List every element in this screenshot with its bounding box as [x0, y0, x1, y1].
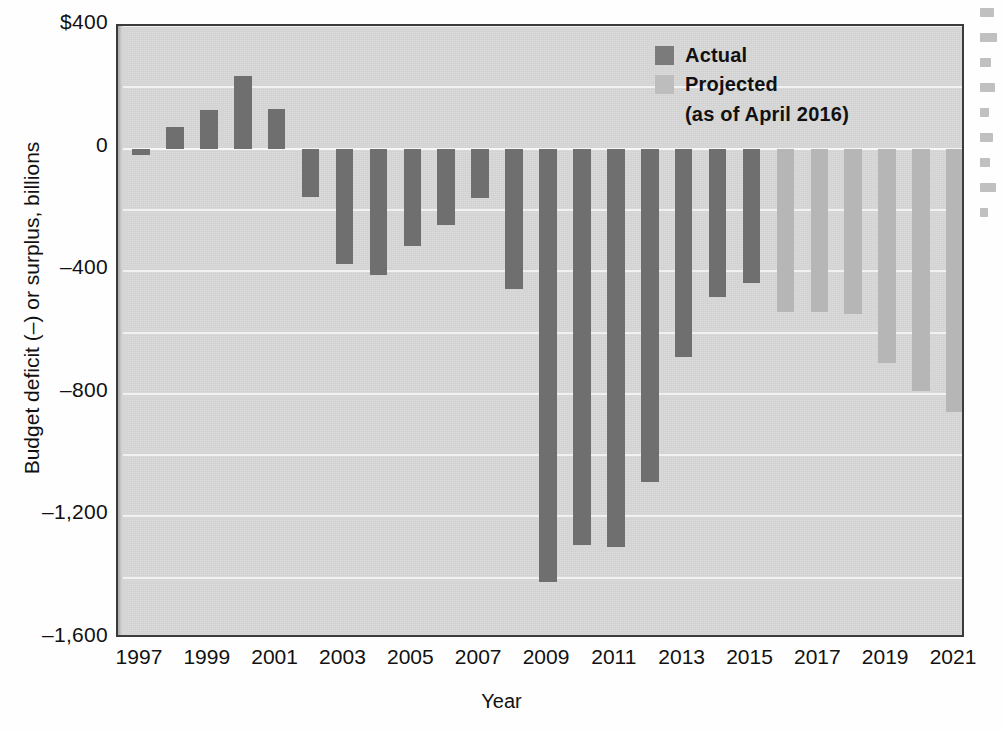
bar-2021 [946, 149, 964, 413]
x-tick-2015: 2015 [715, 645, 785, 669]
bar-2009 [539, 149, 557, 582]
x-tick-2009: 2009 [511, 645, 581, 669]
bar-2011 [607, 149, 625, 547]
legend-projected-note: (as of April 2016) [685, 102, 905, 126]
x-tick-2005: 2005 [375, 645, 445, 669]
bar-2015 [743, 149, 761, 283]
x-tick-1999: 1999 [172, 645, 242, 669]
y-axis-title: Budget deficit (–) or surplus, billions [20, 48, 44, 568]
bar-2013 [675, 149, 693, 357]
legend-item-projected: Projected [655, 73, 905, 95]
bar-2002 [302, 149, 320, 197]
legend-item-actual: Actual [655, 44, 905, 66]
bar-2007 [471, 149, 489, 198]
x-tick-2007: 2007 [443, 645, 513, 669]
y-axis-tick-labels: $4000–400–800–1,200–1,600 [0, 0, 108, 732]
bar-2016 [777, 149, 795, 313]
x-tick-2019: 2019 [850, 645, 920, 669]
bar-2004 [370, 149, 388, 276]
x-tick-1997: 1997 [104, 645, 174, 669]
bar-2019 [878, 149, 896, 364]
bar-2003 [336, 149, 354, 265]
legend-swatch-actual-icon [655, 46, 674, 65]
chart-legend: Actual Projected (as of April 2016) [655, 44, 905, 126]
bar-1999 [200, 110, 218, 149]
y-tick-400: $400 [0, 10, 108, 34]
x-tick-2003: 2003 [307, 645, 377, 669]
x-tick-2011: 2011 [579, 645, 649, 669]
x-tick-2001: 2001 [240, 645, 310, 669]
y-tick--1600: –1,600 [0, 623, 108, 647]
bar-2010 [573, 149, 591, 546]
bar-2014 [709, 149, 727, 298]
legend-label-projected: Projected [685, 73, 778, 95]
bar-2018 [844, 149, 862, 314]
x-axis-tick-labels: 1997199920012003200520072009201120132015… [116, 645, 964, 675]
budget-deficit-chart-figure: $4000–400–800–1,200–1,600 Budget deficit… [0, 0, 1003, 732]
bar-2008 [505, 149, 523, 290]
y-tick-0: 0 [0, 133, 108, 157]
y-tick--400: –400 [0, 255, 108, 279]
legend-label-actual: Actual [685, 44, 747, 66]
x-tick-2017: 2017 [782, 645, 852, 669]
bar-2001 [268, 109, 286, 148]
bar-2017 [811, 149, 829, 313]
bar-2005 [404, 149, 422, 246]
page-gutter-sliver [980, 8, 1003, 298]
y-tick--1200: –1,200 [0, 500, 108, 524]
bar-2020 [912, 149, 930, 391]
bar-1997 [132, 149, 150, 156]
x-tick-2013: 2013 [647, 645, 717, 669]
legend-swatch-projected-icon [655, 75, 674, 94]
y-tick--800: –800 [0, 378, 108, 402]
bar-2000 [234, 76, 252, 148]
bar-2006 [437, 149, 455, 225]
x-tick-2021: 2021 [918, 645, 988, 669]
bar-2012 [641, 149, 659, 482]
x-axis-title: Year [0, 690, 1003, 713]
bar-1998 [166, 127, 184, 148]
